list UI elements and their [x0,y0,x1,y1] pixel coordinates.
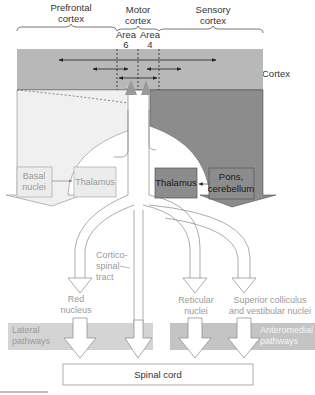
anteromedial-label-1: Anteromedial [260,325,313,335]
area4-label-2: 4 [147,39,152,50]
motor-pathways-diagram: Prefrontal cortex Motor cortex Sensory c… [0,0,315,395]
reticular-label-1: Reticular [178,295,214,305]
motor-label-1: Motor [126,4,150,15]
sensory-brace [159,26,263,33]
pons-label-2: cerebellum [208,183,255,194]
prefrontal-label-1: Prefrontal [50,2,91,13]
reticular-label-2: nuclei [184,306,208,316]
area6-label-2: 6 [123,39,128,50]
spinal-cord-label: Spinal cord [134,369,182,380]
superior-arrowhead [232,278,256,293]
corticospinal-label-2: spinal [96,261,120,271]
anteromedial-label-2: pathways [260,336,299,346]
lateral-label-2: pathways [12,336,51,346]
motor-label-2: cortex [125,15,151,26]
superior-label-2: and vestibular nuclei [229,306,311,316]
lateral-label-1: Lateral [12,325,40,335]
tract-labels: Cortico- spinal tract Red nucleus Reticu… [60,250,311,316]
basal-nuclei-label-2: nuclei [22,182,46,192]
cortex-band [17,49,263,90]
cortex-label: Cortex [262,68,290,79]
sensory-label-1: Sensory [196,4,231,15]
red-nucleus-label-1: Red [68,294,85,304]
red-nucleus-arrowhead [68,278,92,293]
corticospinal-label-3: tract [96,272,114,282]
thalamus-right-label: Thalamus [155,177,197,188]
corticospinal-label-1: Cortico- [96,250,128,260]
prefrontal-label-2: cortex [58,13,84,24]
sensory-label-2: cortex [200,15,226,26]
reticular-arrowhead [183,278,207,293]
pons-label-1: Pons, [219,171,243,182]
prefrontal-brace [17,24,117,31]
thalamus-left-label: Thalamus [75,177,115,187]
superior-label-1: Superior colliculus [233,295,307,305]
red-nucleus-label-2: nucleus [60,305,92,315]
basal-nuclei-label-1: Basal [23,171,46,181]
